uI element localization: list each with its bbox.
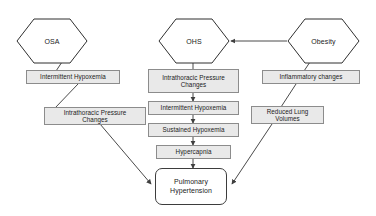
edge-intrathoracic-left-to-pulmonary-hypertension	[100, 124, 151, 184]
node-intermittent-hypoxemia-left[interactable]: Intermittent Hypoxemia	[26, 70, 120, 84]
node-obesity[interactable]: Obesity	[287, 18, 360, 64]
node-inflammatory-changes[interactable]: Inflammatory changes	[262, 70, 360, 84]
node-pulmonary-hypertension[interactable]: Pulmonary Hypertension	[155, 168, 227, 205]
node-sustained-hypoxemia[interactable]: Sustained Hypoxemia	[148, 123, 239, 137]
node-intrathoracic-pressure-changes-center[interactable]: Intrathoracic Pressure Changes	[148, 69, 239, 93]
edge-intermittent-hypoxemia-to-intrathoracic-left	[55, 84, 78, 108]
diagram-canvas: OSA OHS Obesity Intermittent Hypoxemia I…	[0, 0, 376, 216]
node-obesity-label: Obesity	[287, 18, 360, 64]
edge-inflammatory-changes-to-reduced-lung-volumes	[281, 84, 296, 107]
node-intermittent-hypoxemia-center[interactable]: Intermittent Hypoxemia	[148, 101, 239, 115]
node-osa[interactable]: OSA	[16, 18, 88, 64]
node-hypercapnia[interactable]: Hypercapnia	[156, 145, 231, 159]
node-intrathoracic-pressure-changes-left[interactable]: Intrathoracic Pressure Changes	[44, 107, 146, 125]
node-osa-label: OSA	[16, 18, 88, 64]
node-reduced-lung-volumes[interactable]: Reduced Lung Volumes	[251, 106, 324, 124]
node-ohs-label: OHS	[158, 18, 230, 64]
node-ohs[interactable]: OHS	[158, 18, 230, 64]
